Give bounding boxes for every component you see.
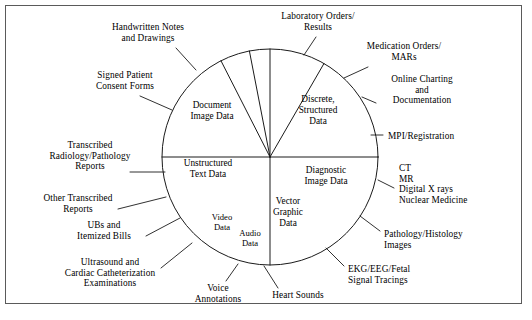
pie-segment-label-diagnostic-image-data: DiagnosticImage Data [304,165,347,187]
pie-segment-label-line: Vector [273,196,303,207]
callout-text-line: Reports [50,161,131,172]
leader-line-ct-mr-digital-xrays-nuclear-medicine [378,180,394,188]
callout-other-transcribed-reports: Other TranscribedReports [43,193,112,214]
pie-segment-label-line: Discrete, [299,94,338,105]
callout-text-line: Ultrasound and [65,257,155,268]
callout-ct-mr-digital-xrays-nuclear-medicine: CTMRDigital X raysNuclear Medicine [399,163,467,205]
callout-laboratory-orders-results: Laboratory Orders/Results [281,11,354,32]
callout-ubs-and-itemized-bills: UBs andItemized Bills [77,220,131,241]
callout-mpi-registration: MPI/Registration [388,131,454,142]
figure-root: DocumentImage DataDiscrete,StructuredDat… [0,0,532,320]
leader-line-ultrasound-cardiac-catheterization [161,243,192,268]
callout-text-line: Documentation [391,95,453,106]
callout-text-line: Pathology/Histology [384,229,463,240]
callout-text-line: Heart Sounds [272,290,324,301]
leader-line-online-charting-and-documentation [362,97,376,103]
callout-text-line: and [391,85,453,96]
leader-line-heart-sounds [264,266,278,288]
pie-segment-label-line: Data [299,116,338,127]
leader-line-other-transcribed-reports [118,197,166,209]
callout-text-line: MPI/Registration [388,131,454,142]
callout-text-line: Reports [43,204,112,215]
leader-line-medication-orders-mars [344,67,368,78]
callout-text-line: Annotations [195,294,242,305]
callout-text-line: Itemized Bills [77,231,131,242]
pie-segment-label-line: Audio [239,228,260,238]
callout-text-line: Examinations [65,278,155,289]
leader-line-signed-patient-consent-forms [140,96,172,110]
pie-segment-label-line: Data [212,222,233,232]
callout-text-line: EKG/EEG/Fetal [348,264,410,275]
callout-ekg-eeg-fetal-signal-tracings: EKG/EEG/FetalSignal Tracings [348,264,410,285]
callout-signed-patient-consent-forms: Signed PatientConsent Forms [96,70,154,91]
callout-text-line: Handwritten Notes [112,22,184,33]
callout-text-line: Cardiac Catheterization [65,268,155,279]
pie-segment-label-line: Image Data [190,111,233,122]
callout-text-line: Signal Tracings [348,275,410,286]
leader-line-laboratory-orders-results [304,37,316,55]
pie-segment-label-line: Unstructured [184,158,233,169]
pie-segment-label-unstructured-text-data: UnstructuredText Data [184,158,233,180]
callout-text-line: Medication Orders/ [367,41,441,52]
pie-segment-label-line: Data [239,238,260,248]
callout-heart-sounds: Heart Sounds [272,290,324,301]
leader-line-pathology-histology-images [360,216,380,231]
callout-online-charting-and-documentation: Online ChartingandDocumentation [391,74,453,106]
callout-text-line: MARs [367,52,441,63]
callout-medication-orders-mars: Medication Orders/MARs [367,41,441,62]
callout-text-line: Digital X rays [399,184,467,195]
callout-text-line: and Drawings [112,33,184,44]
callout-text-line: UBs and [77,220,131,231]
callout-text-line: Radiology/Pathology [50,151,131,162]
leader-line-ubs-and-itemized-bills [146,218,180,236]
leader-line-handwritten-notes-and-drawings [176,48,196,70]
callout-pathology-histology-images: Pathology/HistologyImages [384,229,463,250]
pie-segment-label-vector-graphic-data: VectorGraphicData [273,196,303,229]
callout-text-line: Online Charting [391,74,453,85]
pie-segment-label-audio-data: AudioData [239,228,260,248]
callout-text-line: Transcribed [50,140,131,151]
pie-segment-label-line: Graphic [273,207,303,218]
callout-text-line: Images [384,240,463,251]
pie-segment-label-line: Video [212,212,233,222]
pie-segment-label-document-image-data: DocumentImage Data [190,100,233,122]
callout-transcribed-radiology-pathology-reports: TranscribedRadiology/PathologyReports [50,140,131,172]
callout-text-line: Results [281,22,354,33]
pie-segment-label-line: Structured [299,105,338,116]
callout-ultrasound-cardiac-catheterization: Ultrasound andCardiac CatheterizationExa… [65,257,155,289]
leader-line-voice-annotations [226,264,238,281]
pie-segment-label-video-data: VideoData [212,212,233,232]
callout-text-line: MR [399,174,467,185]
callout-text-line: CT [399,163,467,174]
callout-voice-annotations: VoiceAnnotations [195,283,242,304]
pie-segment-label-line: Document [190,100,233,111]
callout-text-line: Other Transcribed [43,193,112,204]
pie-circle-group [162,49,378,265]
pie-segment-label-line: Diagnostic [304,165,347,176]
callout-text-line: Signed Patient [96,70,154,81]
pie-segment-label-discrete-structured-data: Discrete,StructuredData [299,94,338,127]
callout-text-line: Voice [195,283,242,294]
pie-segment-label-line: Data [273,218,303,229]
callout-text-line: Laboratory Orders/ [281,11,354,22]
leader-line-ekg-eeg-fetal-signal-tracings [326,248,344,266]
pie-segment-label-line: Text Data [184,169,233,180]
pie-segment-label-line: Image Data [304,176,347,187]
figure-caption-strip [7,309,507,318]
callout-handwritten-notes-and-drawings: Handwritten Notesand Drawings [112,22,184,43]
callout-text-line: Consent Forms [96,81,154,92]
callout-text-line: Nuclear Medicine [399,195,467,206]
